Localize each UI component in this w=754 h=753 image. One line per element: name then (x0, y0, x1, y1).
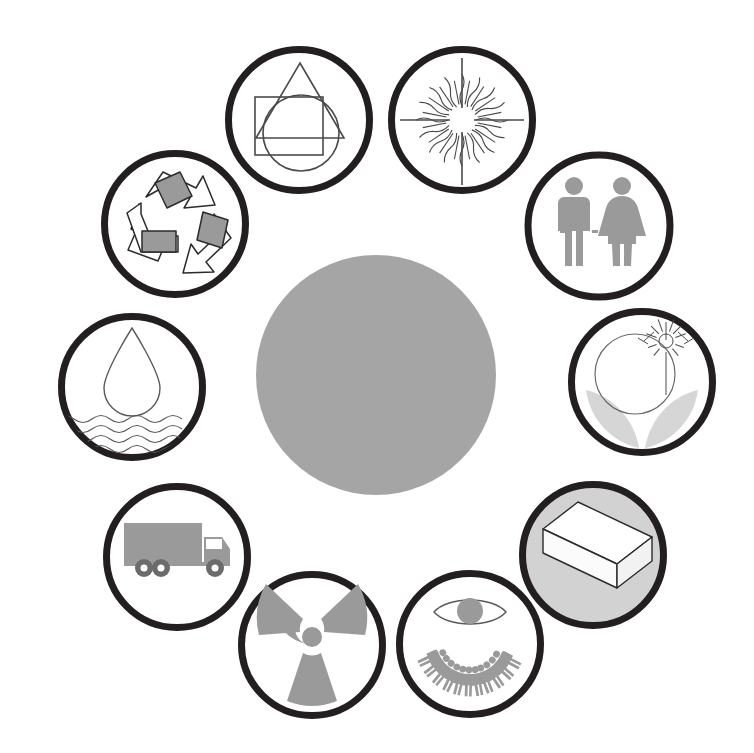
diagram-canvas (0, 0, 754, 753)
node-growth[interactable] (572, 312, 713, 453)
node-shapes[interactable] (229, 50, 370, 191)
node-people-pair[interactable] (528, 155, 670, 297)
center-hub[interactable] (256, 255, 496, 495)
growth-circle-ring[interactable] (572, 312, 713, 453)
node-society[interactable] (400, 574, 541, 715)
node-radiation[interactable] (242, 575, 383, 716)
shapes-circle-ring[interactable] (229, 50, 370, 191)
node-recycling[interactable] (105, 154, 246, 295)
node-water[interactable] (56, 317, 203, 458)
node-transport[interactable] (107, 487, 248, 628)
node-sun[interactable] (392, 50, 533, 191)
icon-ring-diagram (0, 0, 754, 753)
node-materials[interactable] (523, 485, 664, 626)
people-circle-ring[interactable] (528, 155, 670, 297)
